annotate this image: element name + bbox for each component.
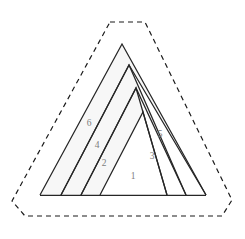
zone-label-2: 2: [102, 158, 107, 168]
zone-label-3: 3: [150, 151, 155, 161]
zone-label-1: 1: [131, 171, 136, 181]
zone-label-5: 5: [158, 129, 163, 139]
diagram-canvas: 1 2 3 4 5 6: [0, 0, 245, 239]
nested-triangles-figure: 1 2 3 4 5 6: [0, 0, 245, 239]
zone-label-6: 6: [87, 118, 92, 128]
zone-label-4: 4: [95, 140, 100, 150]
band-fill-layer: [40, 44, 206, 195]
